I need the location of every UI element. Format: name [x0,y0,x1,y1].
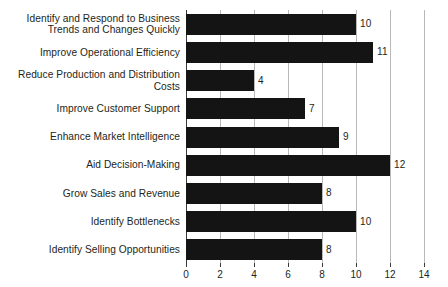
bar [186,183,322,204]
x-tick-label: 14 [418,269,429,280]
x-tick-label: 4 [251,269,257,280]
bar-row: 8 [186,239,424,260]
bar-row: 10 [186,211,424,232]
x-tick-label: 10 [350,269,361,280]
bar-value-label: 12 [394,160,405,170]
x-tick-label: 12 [384,269,395,280]
category-label: Improve Operational Efficiency [0,42,180,63]
bar-value-label: 10 [360,217,371,227]
bar-row: 4 [186,70,424,91]
category-label-text: Identify and Respond to Business Trends … [27,13,180,36]
x-tick-label: 2 [217,269,223,280]
bar-row: 8 [186,183,424,204]
x-tick-label: 8 [319,269,325,280]
bar-row: 7 [186,98,424,119]
category-label-text: Improve Operational Efficiency [40,47,180,59]
x-tick-label: 6 [285,269,291,280]
category-label-text: Identify Bottlenecks [91,216,180,228]
category-label-text: Aid Decision-Making [86,159,180,171]
bar [186,239,322,260]
bar-row: 9 [186,127,424,148]
category-label-text: Grow Sales and Revenue [63,188,180,200]
bar [186,155,390,176]
plot-area: 1011479128108 [186,10,424,264]
bar-value-label: 8 [326,188,332,198]
x-tick-mark [322,263,323,267]
bar-chart: Identify and Respond to Business Trends … [0,0,448,287]
category-label: Enhance Market Intelligence [0,127,180,148]
x-tick-mark [424,263,425,267]
x-tick-mark [288,263,289,267]
gridline-14 [424,10,425,264]
x-tick-mark [220,263,221,267]
x-tick-mark [254,263,255,267]
category-label: Identify Bottlenecks [0,211,180,232]
bar-value-label: 7 [309,104,315,114]
category-labels: Identify and Respond to Business Trends … [0,10,180,264]
bar-value-label: 4 [258,76,264,86]
category-label-text: Reduce Production and Distribution Costs [0,69,180,92]
bar [186,98,305,119]
bar-value-label: 10 [360,19,371,29]
bar [186,42,373,63]
category-label: Identify and Respond to Business Trends … [0,14,180,35]
category-label-text: Improve Customer Support [57,103,181,115]
bar [186,70,254,91]
x-tick-mark [356,263,357,267]
category-label-text: Enhance Market Intelligence [50,131,180,143]
bar-row: 12 [186,155,424,176]
x-tick-mark [186,263,187,267]
x-tick-label: 0 [183,269,189,280]
category-label: Reduce Production and Distribution Costs [0,70,180,91]
category-label: Identify Selling Opportunities [0,239,180,260]
category-label: Aid Decision-Making [0,155,180,176]
bar-value-label: 8 [326,245,332,255]
category-label-text: Identify Selling Opportunities [49,244,180,256]
bar-value-label: 11 [377,47,388,57]
bar [186,127,339,148]
bar [186,211,356,232]
bar-value-label: 9 [343,132,349,142]
category-label: Improve Customer Support [0,98,180,119]
bar-row: 10 [186,14,424,35]
category-label: Grow Sales and Revenue [0,183,180,204]
bar [186,14,356,35]
x-tick-mark [390,263,391,267]
bar-row: 11 [186,42,424,63]
